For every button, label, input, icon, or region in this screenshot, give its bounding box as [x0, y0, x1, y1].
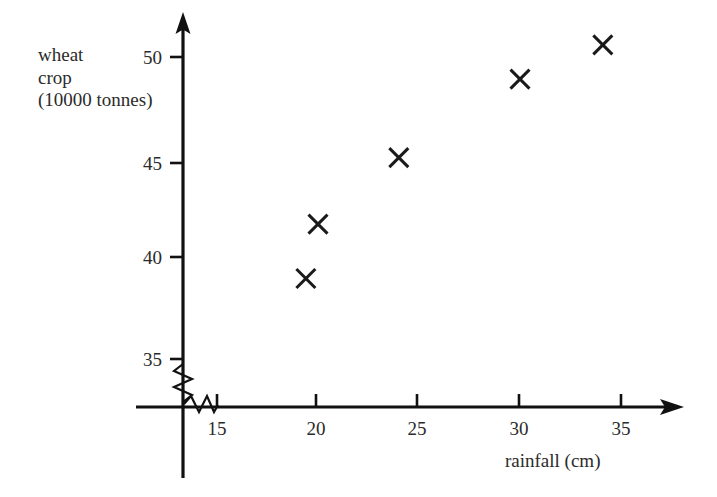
data-point-marker: [296, 269, 315, 288]
data-point-marker: [593, 35, 612, 54]
y-tick-label-40: 40: [143, 247, 162, 268]
data-point-group: [296, 35, 612, 288]
y-tick-label-35: 35: [143, 349, 162, 370]
y-axis-title: wheat crop (10000 tonnes): [38, 44, 153, 112]
x-axis-break-icon: [184, 396, 218, 412]
data-point-marker: [389, 148, 408, 167]
x-tick-label-25: 25: [408, 418, 427, 439]
data-point-marker: [309, 215, 328, 234]
y-axis-title-line-2: crop: [38, 67, 153, 90]
x-tick-label-20: 20: [307, 418, 326, 439]
x-axis-title: rainfall (cm): [505, 450, 600, 472]
x-tick-label-30: 30: [510, 418, 529, 439]
x-tick-label-35: 35: [612, 418, 631, 439]
y-axis-title-line-1: wheat: [38, 44, 153, 67]
y-tick-label-45: 45: [143, 153, 162, 174]
x-tick-label-15: 15: [208, 418, 227, 439]
y-axis-title-line-3: (10000 tonnes): [38, 89, 153, 112]
data-point-marker: [511, 70, 530, 89]
scatter-chart: 35 40 45 50 15 20 25 30 35 wheat crop (1…: [0, 0, 717, 497]
